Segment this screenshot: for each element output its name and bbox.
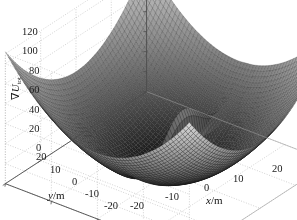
y-axis-tick-4: -20 bbox=[104, 201, 118, 212]
y-axis-tick-1: 10 bbox=[50, 165, 61, 176]
x-axis-tick-4: 20 bbox=[272, 164, 283, 175]
y-axis-tick-3: -10 bbox=[85, 189, 99, 200]
y-axis-tick-0: 20 bbox=[36, 152, 47, 163]
x-axis-tick-0: -20 bbox=[130, 201, 144, 212]
z-axis-tick-3: 60 bbox=[29, 85, 40, 96]
y-axis-label: y/m bbox=[48, 190, 65, 201]
z-axis-label: ∇Utot bbox=[10, 77, 21, 100]
x-axis-label: x/m bbox=[206, 195, 223, 206]
y-axis-tick-2: 0 bbox=[72, 177, 77, 188]
x-axis-tick-1: -10 bbox=[165, 192, 179, 203]
z-axis-tick-4: 40 bbox=[29, 105, 40, 116]
x-axis-tick-2: 0 bbox=[204, 183, 209, 194]
x-axis-tick-3: 10 bbox=[233, 174, 244, 185]
z-axis-tick-5: 20 bbox=[29, 124, 40, 135]
z-axis-tick-0: 120 bbox=[22, 27, 38, 38]
surface-plot-canvas bbox=[0, 0, 297, 220]
surface-plot-figure: 12010080604020020100-10-20-20-1001020x/m… bbox=[0, 0, 297, 220]
z-axis-tick-1: 100 bbox=[22, 46, 38, 57]
z-axis-tick-2: 80 bbox=[29, 66, 40, 77]
